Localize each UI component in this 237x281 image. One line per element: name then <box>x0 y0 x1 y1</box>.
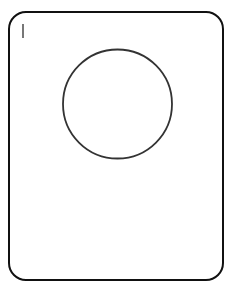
circle-shape <box>63 50 172 159</box>
